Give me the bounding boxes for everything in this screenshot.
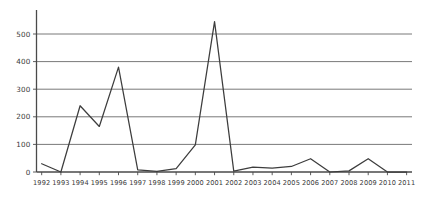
y-tick-label: 500 [16, 30, 31, 39]
x-tick-label: 2009 [360, 179, 377, 187]
x-tick-label: 2007 [321, 179, 338, 187]
x-tick-label: 1998 [148, 179, 165, 187]
x-tick-label: 2005 [283, 179, 300, 187]
x-tick-label: 1995 [91, 179, 108, 187]
x-tick-label: 2008 [340, 179, 357, 187]
x-tick-label: 1994 [72, 179, 89, 187]
y-tick-label: 200 [16, 112, 31, 121]
y-tick-label: 100 [16, 140, 31, 149]
x-tick-label: 1992 [33, 179, 50, 187]
x-tick-label: 1996 [110, 179, 127, 187]
x-tick-label: 2002 [225, 179, 242, 187]
data-series-line [42, 22, 407, 172]
x-tick-label: 2006 [302, 179, 319, 187]
series-1-path [42, 22, 407, 172]
line-chart: 0100200300400500 19921993199419951996199… [0, 0, 423, 205]
x-tick-label: 1993 [52, 179, 69, 187]
x-tick-label: 2000 [187, 179, 204, 187]
y-tick-label: 400 [16, 57, 31, 66]
y-axis-tick-labels: 0100200300400500 [16, 30, 36, 177]
x-tick-label: 2003 [244, 179, 261, 187]
y-tick-label: 0 [26, 168, 31, 177]
x-tick-label: 2004 [264, 179, 281, 187]
x-tick-label: 2010 [379, 179, 396, 187]
x-tick-label: 1997 [129, 179, 146, 187]
x-tick-label: 2011 [398, 179, 415, 187]
gridlines [37, 34, 413, 144]
x-tick-label: 2001 [206, 179, 223, 187]
chart-canvas: 0100200300400500 19921993199419951996199… [0, 0, 423, 205]
y-tick-label: 300 [16, 85, 31, 94]
x-axis-tick-labels: 1992199319941995199619971998199920002001… [33, 179, 415, 187]
x-tick-label: 1999 [168, 179, 185, 187]
